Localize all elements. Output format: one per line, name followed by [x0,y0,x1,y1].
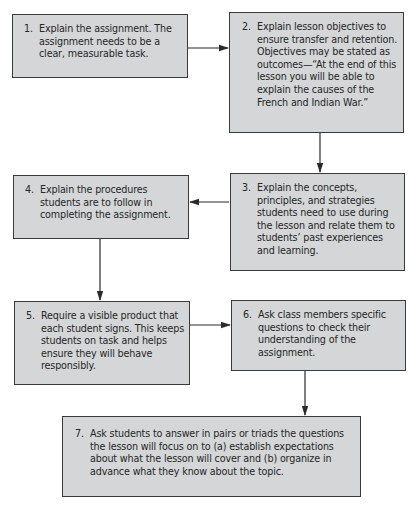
step-box-6: 6. Ask class members specific questions … [231,300,406,371]
step-number: 2. [242,21,257,109]
step-box-1: 1. Explain the assignment. The assignmen… [12,14,188,78]
step-number: 5. [26,310,41,373]
cropped-heading-fragment [0,0,418,2]
step-number: 6. [243,309,258,359]
step-text: Explain the concepts, principles, and st… [257,182,402,258]
step-number: 4. [25,184,40,222]
step-number: 7. [75,428,90,478]
step-number: 1. [24,23,39,61]
step-text: Explain lesson objectives to ensure tran… [257,21,402,109]
step-number: 3. [242,182,257,258]
step-text: Explain the procedures students are to f… [40,184,187,222]
step-box-4: 4. Explain the procedures students are t… [13,175,189,239]
step-box-7: 7. Ask students to answer in pairs or tr… [62,416,361,497]
step-box-5: 5. Require a visible product that each s… [14,301,190,385]
step-text: Ask class members specific questions to … [258,309,401,359]
step-text: Require a visible product that each stud… [41,310,188,373]
step-box-2: 2. Explain lesson objectives to ensure t… [229,12,404,133]
step-text: Ask students to answer in pairs or triad… [90,428,355,478]
step-text: Explain the assignment. The assignment n… [39,23,182,61]
step-box-3: 3. Explain the concepts, principles, and… [230,173,405,271]
